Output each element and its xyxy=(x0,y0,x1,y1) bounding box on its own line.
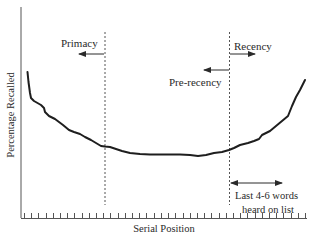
primacy-label: Primacy xyxy=(61,37,98,49)
last-words-label-line1: Last 4-6 words xyxy=(235,190,298,201)
pre-recency-label: Pre-recency xyxy=(169,76,222,88)
y-axis-label: Percentage Recalled xyxy=(5,72,16,158)
x-axis-label: Serial Position xyxy=(133,223,195,234)
recency-label: Recency xyxy=(234,40,272,52)
recall-curve xyxy=(28,72,306,156)
last-words-label-line2: heard on list xyxy=(242,204,294,215)
serial-position-chart: Primacy Recency Pre-recency Last 4-6 wor… xyxy=(0,0,316,238)
